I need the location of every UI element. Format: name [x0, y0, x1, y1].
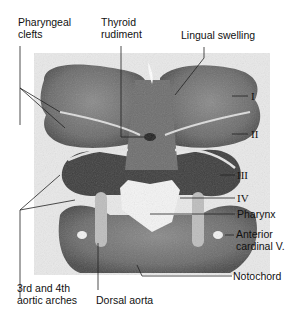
label-arch-iii: III	[237, 169, 248, 181]
label-line: Thyroid	[101, 16, 142, 28]
label-arch-iv: IV	[237, 192, 249, 204]
label-line: 3rd and 4th	[17, 282, 77, 294]
label-pharyngeal-clefts: Pharyngeal clefts	[18, 16, 71, 40]
label-lingual-swelling: Lingual swelling	[181, 29, 255, 41]
label-dorsal-aorta: Dorsal aorta	[96, 294, 153, 306]
label-arch-i: I	[251, 90, 255, 102]
label-aortic-arches: 3rd and 4th aortic arches	[17, 282, 77, 306]
label-line: clefts	[18, 28, 71, 40]
label-pharynx: Pharynx	[237, 208, 276, 220]
label-thyroid-rudiment: Thyroid rudiment	[101, 16, 142, 40]
label-line: rudiment	[101, 28, 142, 40]
label-arch-ii: II	[251, 128, 258, 140]
label-anterior-cardinal: Anterior cardinal V.	[236, 228, 285, 252]
label-line: aortic arches	[17, 294, 77, 306]
label-line: Pharyngeal	[18, 16, 71, 28]
label-line: cardinal V.	[236, 240, 285, 252]
label-line: Anterior	[236, 228, 285, 240]
tissue	[34, 53, 270, 275]
label-notochord: Notochord	[233, 270, 281, 282]
